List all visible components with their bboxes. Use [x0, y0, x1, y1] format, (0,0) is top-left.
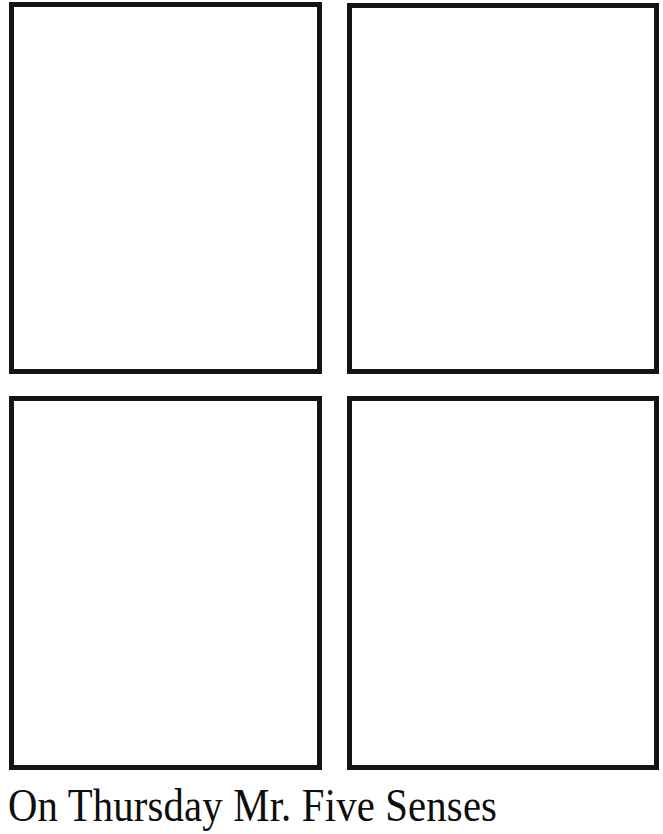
caption-area: On Thursday Mr. Five Senses — [0, 775, 663, 834]
draw-box-top-left[interactable] — [9, 2, 322, 374]
draw-box-bottom-left[interactable] — [9, 396, 322, 770]
panel-grid — [0, 0, 663, 775]
draw-box-top-right[interactable] — [347, 3, 659, 374]
draw-box-bottom-right[interactable] — [347, 396, 659, 770]
caption-text: On Thursday Mr. Five Senses — [8, 780, 497, 832]
worksheet-page: On Thursday Mr. Five Senses — [0, 0, 663, 834]
